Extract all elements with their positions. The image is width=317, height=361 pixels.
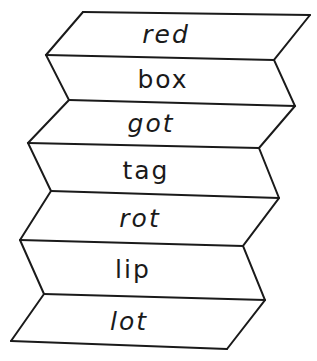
- panel-word-4: tag: [123, 158, 170, 183]
- fold-line-3: [28, 143, 259, 148]
- panel-word-7: lot: [110, 309, 148, 334]
- folded-word-strip: red box got tag rot lip lot: [0, 0, 317, 361]
- fold-line-4: [51, 191, 279, 198]
- panel-word-2: box: [137, 67, 188, 92]
- fold-line-5: [20, 240, 243, 246]
- panel-word-1: red: [142, 22, 190, 47]
- fold-line-bottom: [11, 341, 227, 349]
- panel-word-5: rot: [119, 206, 160, 231]
- fold-line-1: [46, 55, 274, 60]
- fold-line-6: [44, 294, 265, 300]
- panel-word-3: got: [128, 111, 175, 136]
- fold-line-2: [69, 100, 295, 106]
- left-edge: [11, 12, 83, 341]
- fold-line-top: [83, 12, 310, 15]
- panel-word-6: lip: [115, 257, 151, 282]
